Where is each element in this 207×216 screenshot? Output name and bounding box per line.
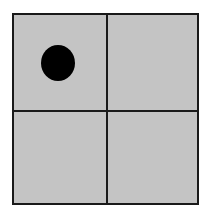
- cell-r1-c0[interactable]: [14, 112, 106, 205]
- cell-r1-c1[interactable]: [108, 112, 199, 205]
- game-board: [12, 13, 199, 205]
- grid-line-vertical: [106, 15, 108, 203]
- cell-r0-c0[interactable]: [14, 15, 106, 110]
- grid-line-horizontal: [14, 110, 197, 112]
- cell-r0-c1[interactable]: [108, 15, 199, 110]
- black-disc-piece[interactable]: [41, 45, 75, 81]
